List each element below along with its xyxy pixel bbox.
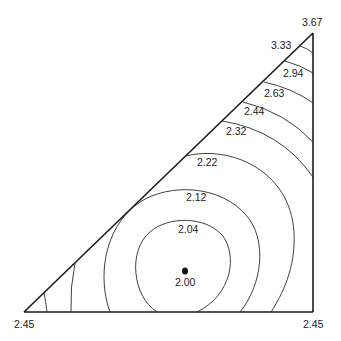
contour-label-2-22: 2.22 [197,156,218,168]
contour-2-22-line [186,153,294,312]
contour-3-33-line [300,46,313,53]
corner-label-top: 3.67 [302,16,323,28]
contour-label-2-94: 2.94 [283,67,304,79]
triangle-frame [24,33,313,312]
corner-label-bottom-right: 2.45 [303,318,324,330]
contour-label-2-44: 2.44 [244,105,265,117]
minimum-point-marker [182,267,188,274]
contour-label-2-12: 2.12 [186,191,207,203]
contour-label-3-33: 3.33 [271,39,292,51]
contour-label-2-32: 2.32 [226,125,247,137]
contour-2-12-line [104,190,260,312]
contour-left-outer-line [44,293,47,312]
contour-label-2-63: 2.63 [264,87,285,99]
corner-label-bottom-left: 2.45 [14,318,35,330]
contour-diagram: 3.67 2.45 2.45 3.33 2.94 2.63 2.44 2.32 … [0,0,341,341]
contour-lines [44,46,313,312]
contour-label-2-04: 2.04 [178,223,199,235]
contour-left-inner-line [71,263,75,312]
hypotenuse-edge [24,33,313,312]
minimum-value-label: 2.00 [175,276,196,288]
